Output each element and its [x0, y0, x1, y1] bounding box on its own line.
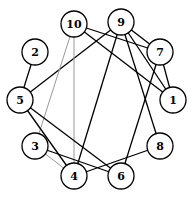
node-label: 6: [117, 170, 125, 183]
node-7: 7: [147, 39, 173, 65]
node-label: 10: [66, 18, 82, 31]
node-2: 2: [22, 39, 48, 65]
node-4: 4: [61, 163, 87, 189]
nodes-layer: 12345678910: [7, 9, 186, 189]
node-5: 5: [7, 87, 33, 113]
node-label: 9: [117, 16, 125, 29]
node-label: 3: [31, 140, 39, 153]
node-label: 7: [156, 46, 164, 59]
node-label: 8: [156, 140, 164, 153]
node-label: 4: [70, 170, 78, 183]
edge-9-4: [74, 22, 121, 176]
node-9: 9: [108, 9, 134, 35]
graph-diagram: 12345678910: [0, 0, 195, 199]
node-6: 6: [108, 163, 134, 189]
node-label: 1: [169, 94, 177, 107]
node-3: 3: [22, 133, 48, 159]
node-1: 1: [160, 87, 186, 113]
node-8: 8: [147, 133, 173, 159]
node-10: 10: [61, 11, 87, 37]
node-label: 2: [31, 46, 39, 59]
node-label: 5: [16, 94, 24, 107]
